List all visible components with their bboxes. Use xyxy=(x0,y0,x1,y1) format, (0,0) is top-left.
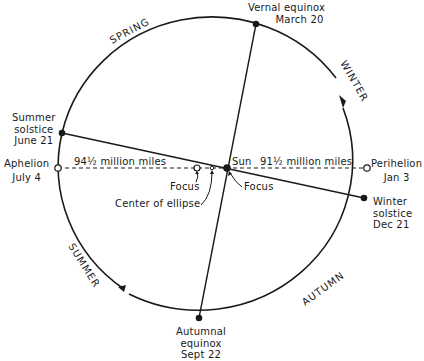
center-leader xyxy=(201,172,212,205)
aphelion-point xyxy=(55,165,61,171)
vernal-equinox-label: Vernal equinox March 20 xyxy=(248,2,325,26)
winter-arrow-icon xyxy=(339,95,346,108)
sun-label: Sun xyxy=(232,156,252,168)
aphelion-distance: 94½ million miles xyxy=(74,156,166,168)
aphelion-label: Aphelion July 4 xyxy=(4,157,49,185)
season-autumn: AUTUMN xyxy=(300,270,347,308)
autumnal-equinox-dot xyxy=(196,315,203,322)
season-spring: SPRING xyxy=(108,16,152,46)
perihelion-point xyxy=(364,165,370,171)
season-winter: WINTER xyxy=(338,59,370,104)
winter-solstice-dot xyxy=(361,195,368,202)
center-label: Center of ellipse xyxy=(115,198,200,210)
winter-solstice-label: Winter solstice Dec 21 xyxy=(373,196,412,231)
perihelion-label: Perihelion Jan 3 xyxy=(371,157,422,185)
summer-solstice-label: Summer solstice June 21 xyxy=(12,112,56,147)
ellipse-center-point xyxy=(210,166,214,170)
summer-solstice-dot xyxy=(59,130,66,137)
empty-focus-point xyxy=(194,165,200,171)
orbit-diagram: SPRING WINTER SUMMER AUTUMN xyxy=(0,0,424,361)
perihelion-distance: 91½ million miles xyxy=(260,156,352,168)
focus-right-label: Focus xyxy=(244,181,274,193)
autumnal-equinox-label: Autumnal equinox Sept 22 xyxy=(176,326,226,361)
focus-left-label: Focus xyxy=(170,181,200,193)
sun-dot xyxy=(223,164,231,172)
sun-focus-leader xyxy=(230,173,242,187)
